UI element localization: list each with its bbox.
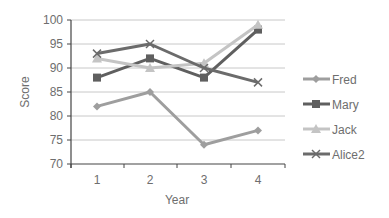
legend-label: Jack — [332, 123, 358, 137]
square-marker — [146, 54, 154, 62]
diamond-marker — [254, 126, 262, 134]
y-tick-label: 85 — [50, 85, 64, 99]
legend-item-jack: Jack — [303, 123, 358, 137]
legend-item-fred: Fred — [303, 73, 357, 87]
series-line — [97, 92, 258, 145]
series-jack — [92, 20, 263, 72]
legend-label: Fred — [332, 73, 357, 87]
axes — [71, 20, 285, 168]
x-axis-title: Year — [165, 193, 189, 207]
x-tick-label: 4 — [255, 173, 262, 187]
square-marker — [312, 100, 320, 108]
legend-item-alice2: Alice2 — [303, 148, 365, 162]
y-tick-label: 100 — [43, 13, 63, 27]
y-tick-label: 80 — [50, 109, 64, 123]
square-marker — [93, 74, 101, 82]
y-tick-label: 70 — [50, 157, 64, 171]
y-tick-label: 90 — [50, 61, 64, 75]
x-axis-ticks: 1234 — [71, 164, 285, 187]
data-series — [92, 20, 263, 149]
legend-item-mary: Mary — [303, 98, 359, 112]
diamond-marker — [312, 75, 320, 83]
line-chart: 707580859095100 1234 Score Year FredMary… — [0, 0, 389, 218]
y-axis-ticks: 707580859095100 — [43, 13, 71, 171]
y-axis-title: Score — [18, 76, 32, 108]
y-tick-label: 95 — [50, 37, 64, 51]
series-line — [97, 25, 258, 68]
legend: FredMaryJackAlice2 — [303, 73, 365, 162]
y-tick-label: 75 — [50, 133, 64, 147]
x-tick-label: 1 — [94, 173, 101, 187]
triangle-marker — [253, 20, 263, 29]
x-tick-label: 3 — [201, 173, 208, 187]
legend-label: Mary — [332, 98, 359, 112]
legend-label: Alice2 — [332, 148, 365, 162]
square-marker — [200, 74, 208, 82]
series-line — [97, 30, 258, 78]
x-tick-label: 2 — [147, 173, 154, 187]
diamond-marker — [93, 102, 101, 110]
series-mary — [93, 26, 262, 82]
